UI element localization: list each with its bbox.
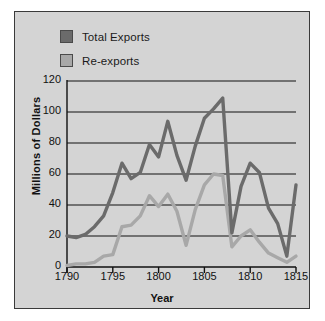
chart-plot-area — [15, 12, 311, 310]
chart-panel: Total Exports Re-exports Millions of Dol… — [14, 11, 310, 309]
